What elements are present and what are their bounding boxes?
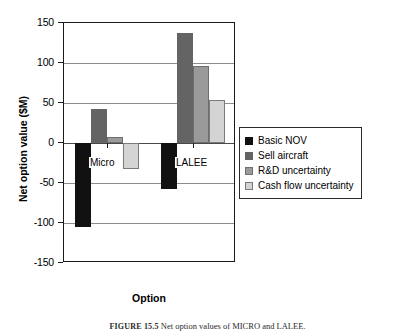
y-axis-tick-label: -100 [34, 217, 54, 227]
y-axis-tick-label: -150 [34, 257, 54, 267]
group-label-micro: Micro [89, 157, 115, 168]
y-axis-tick-label: 150 [37, 17, 54, 27]
figure-caption-number: FIGURE 15.5 [109, 322, 158, 331]
figure-caption: FIGURE 15.5 Net option values of MICRO a… [0, 321, 415, 331]
bar-lalee-series-2 [193, 66, 209, 143]
plot-area: MicroLALEE [63, 22, 235, 262]
y-axis-tick-label: 100 [37, 57, 54, 67]
bar-lalee-series-3 [209, 100, 225, 143]
bar-micro-series-0 [75, 143, 91, 227]
x-axis-tick-mark [193, 143, 194, 148]
bar-micro-series-2 [107, 137, 123, 143]
legend-item: Basic NOV [245, 133, 354, 148]
legend-item-label: R&D uncertainty [258, 165, 331, 176]
legend-swatch-basic-nov [245, 137, 253, 145]
legend-swatch-sell-aircraft [245, 152, 253, 160]
y-axis-tick-mark [58, 262, 63, 263]
legend-swatch-rd-uncertainty [245, 167, 253, 175]
legend: Basic NOVSell aircraftR&D uncertaintyCas… [239, 127, 362, 199]
legend-swatch-cash-flow-uncertainty [245, 182, 253, 190]
y-axis-tick-label: 50 [43, 97, 54, 107]
legend-item-label: Sell aircraft [258, 150, 308, 161]
legend-item-label: Cash flow uncertainty [258, 180, 354, 191]
y-axis: 150100500-50-100-150 [0, 0, 63, 330]
legend-item: Cash flow uncertainty [245, 178, 354, 193]
y-axis-tick-label: 0 [48, 137, 54, 147]
group-label-lalee: LALEE [175, 157, 208, 168]
y-axis-tick-label: -50 [39, 177, 54, 187]
bar-lalee-series-1 [177, 33, 193, 143]
gridline [64, 63, 234, 64]
x-axis-tick-mark [107, 143, 108, 148]
x-axis-title: Option [63, 292, 235, 304]
legend-item-label: Basic NOV [258, 135, 307, 146]
bar-micro-series-3 [123, 143, 139, 169]
figure-caption-text: Net option values of MICRO and LALEE. [161, 321, 306, 331]
legend-item: R&D uncertainty [245, 163, 354, 178]
bar-micro-series-1 [91, 109, 107, 143]
legend-item: Sell aircraft [245, 148, 354, 163]
